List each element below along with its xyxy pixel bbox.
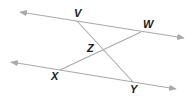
segment-WX: [60, 32, 141, 70]
point-label-w: W: [143, 18, 155, 30]
lower-parallel-line: [11, 62, 176, 89]
geometry-diagram: V W Z X Y: [0, 0, 190, 96]
point-label-y: Y: [130, 83, 139, 95]
point-label-v: V: [74, 7, 83, 19]
upper-parallel-line: [20, 12, 184, 38]
point-label-x: X: [50, 70, 59, 82]
segment-VY: [77, 21, 133, 82]
point-label-z: Z: [86, 42, 95, 54]
